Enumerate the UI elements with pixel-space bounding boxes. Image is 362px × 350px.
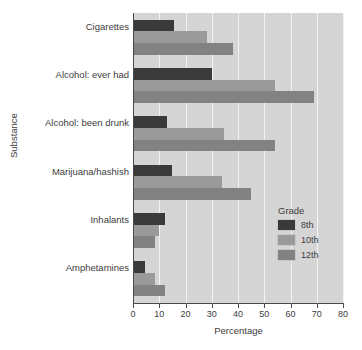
category-label: Marijuana/hashish [3, 165, 129, 176]
bar [133, 176, 222, 188]
category-label: Alcohol: been drunk [3, 117, 129, 128]
x-tick-label: 70 [312, 309, 322, 319]
x-tick-label: 0 [130, 309, 135, 319]
bar [133, 225, 159, 237]
gridline [186, 13, 187, 303]
legend-swatch [277, 219, 296, 231]
legend-entries: 8th10th12th [277, 219, 319, 261]
x-tick [238, 304, 239, 308]
bar-chart: 01020304050607080 Percentage Substance C… [0, 0, 362, 350]
bar [133, 261, 145, 273]
x-tick [186, 304, 187, 308]
bar [133, 213, 165, 225]
x-tick [343, 304, 344, 308]
x-tick-label: 20 [180, 309, 190, 319]
x-axis-title: Percentage [133, 325, 344, 336]
bar [133, 20, 174, 32]
y-axis-line [133, 13, 134, 304]
legend-swatch [277, 234, 296, 246]
legend-label: 10th [301, 235, 319, 245]
legend-swatch [277, 249, 296, 261]
x-tick [317, 304, 318, 308]
bar [133, 43, 233, 55]
legend-label: 8th [301, 220, 314, 230]
bar [133, 165, 172, 177]
x-tick [159, 304, 160, 308]
x-tick [291, 304, 292, 308]
bar [133, 140, 275, 152]
legend-item[interactable]: 12th [277, 249, 319, 261]
x-tick-label: 40 [233, 309, 243, 319]
x-tick [212, 304, 213, 308]
legend-title: Grade [278, 205, 319, 216]
x-tick-label: 50 [259, 309, 269, 319]
legend: Grade 8th10th12th [277, 205, 319, 264]
x-tick-label: 80 [338, 309, 348, 319]
gridline [238, 13, 239, 303]
bar [133, 91, 314, 103]
category-label: Alcohol: ever had [3, 68, 129, 79]
bar [133, 31, 207, 43]
category-label: Cigarettes [3, 20, 129, 31]
category-label: Inhalants [3, 213, 129, 224]
category-labels: CigarettesAlcohol: ever hadAlcohol: been… [0, 0, 129, 350]
x-tick [133, 304, 134, 308]
legend-item[interactable]: 10th [277, 234, 319, 246]
legend-label: 12th [301, 250, 319, 260]
gridline [212, 13, 213, 303]
gridline [159, 13, 160, 303]
bar [133, 116, 167, 128]
category-label: Amphetamines [3, 262, 129, 273]
gridline [264, 13, 265, 303]
bar [133, 128, 224, 140]
bar [133, 68, 212, 80]
bar [133, 80, 275, 92]
gridline [343, 13, 344, 303]
x-tick-label: 30 [207, 309, 217, 319]
legend-item[interactable]: 8th [277, 219, 319, 231]
bar [133, 273, 155, 285]
x-tick [264, 304, 265, 308]
x-tick-label: 10 [154, 309, 164, 319]
bar [133, 236, 155, 248]
bar [133, 188, 251, 200]
bar [133, 285, 165, 297]
x-tick-label: 60 [285, 309, 295, 319]
